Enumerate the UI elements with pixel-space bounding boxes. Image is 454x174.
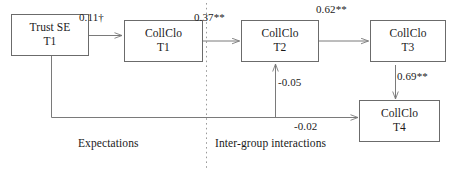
edge-label-trust-to-collclo-t2: -0.05 [278, 76, 301, 88]
section-label-intergroup-interactions: Inter-group interactions [215, 137, 326, 149]
node-collclo-t3-line1: CollClo [389, 27, 426, 41]
node-trust-se-t1[interactable]: Trust SE T1 [11, 14, 89, 56]
node-collclo-t4[interactable]: CollClo T4 [359, 100, 440, 142]
edge-label-collclo-t2-to-t3: 0.62** [316, 3, 347, 15]
node-collclo-t1-line2: T1 [157, 41, 170, 55]
node-collclo-t4-line1: CollClo [381, 107, 418, 121]
edge-trust-to-collclo-t4 [52, 56, 359, 118]
node-collclo-t1-line1: CollClo [145, 27, 182, 41]
node-collclo-t3[interactable]: CollClo T3 [370, 20, 446, 62]
node-collclo-t4-line2: T4 [393, 121, 406, 135]
path-diagram: Trust SE T1 CollClo T1 CollClo T2 CollCl… [0, 0, 454, 174]
section-label-expectations: Expectations [78, 137, 139, 149]
edge-label-collclo-t3-to-t4: 0.69** [397, 70, 428, 82]
node-collclo-t2-line2: T2 [274, 41, 287, 55]
node-collclo-t3-line2: T3 [402, 41, 415, 55]
node-collclo-t2-line1: CollClo [261, 27, 298, 41]
node-collclo-t2[interactable]: CollClo T2 [241, 20, 319, 62]
node-trust-se-t1-line2: T1 [44, 35, 57, 49]
edge-label-trust-to-collclo-t4: -0.02 [294, 120, 317, 132]
edge-label-trust-to-collclo-t1: 0.11† [79, 11, 104, 23]
node-trust-se-t1-line1: Trust SE [30, 21, 71, 35]
node-collclo-t1[interactable]: CollClo T1 [124, 20, 203, 62]
edge-label-collclo-t1-to-t2: 0.37** [194, 11, 225, 23]
